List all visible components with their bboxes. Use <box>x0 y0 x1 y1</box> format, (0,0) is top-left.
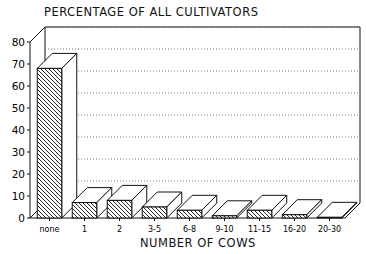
x-tick-label: 6-8 <box>183 225 196 234</box>
y-tick-label: 70 <box>12 58 25 70</box>
bar <box>72 188 112 218</box>
bar <box>247 195 287 218</box>
y-tick-label: 50 <box>12 102 25 114</box>
bar <box>107 185 147 218</box>
bar <box>142 192 182 218</box>
x-tick-label: 16-20 <box>283 225 306 234</box>
x-tick-label: 9-10 <box>215 225 233 234</box>
y-tick-label: 40 <box>12 124 25 136</box>
bar <box>317 202 357 218</box>
x-tick-label: 1 <box>82 225 87 234</box>
x-tick-label: 11-15 <box>248 225 271 234</box>
bar <box>37 53 77 218</box>
y-tick-label: 10 <box>12 190 25 202</box>
bar <box>282 200 322 218</box>
y-tick-label: 80 <box>12 36 25 48</box>
y-tick-label: 30 <box>12 146 25 158</box>
x-tick-label: 2 <box>117 225 122 234</box>
bar <box>177 195 217 218</box>
x-tick-label: 20-30 <box>318 225 341 234</box>
bar-chart: 01020304050607080none123-56-89-1011-1516… <box>0 0 366 254</box>
y-tick-label: 0 <box>18 212 25 224</box>
x-tick-label: 3-5 <box>148 225 161 234</box>
y-tick-label: 20 <box>12 168 25 180</box>
x-tick-label: none <box>40 225 60 234</box>
y-tick-label: 60 <box>12 80 25 92</box>
bar <box>212 201 252 218</box>
